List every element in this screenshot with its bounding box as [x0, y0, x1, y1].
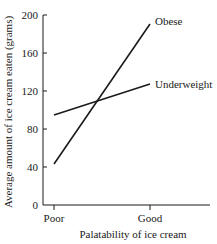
- line-chart: 200 160 120 80 40 0 Poor Good Palatabili…: [0, 0, 217, 244]
- y-ticks: [43, 15, 47, 167]
- y-tick-0: 0: [33, 199, 39, 211]
- series-label-obese: Obese: [155, 15, 183, 27]
- y-tick-labels: 200 160 120 80 40 0: [22, 9, 39, 211]
- y-tick-200: 200: [22, 9, 39, 21]
- y-tick-120: 120: [22, 85, 39, 97]
- x-axis-title: Palatability of ice cream: [79, 228, 187, 240]
- y-axis-title: Average amount of ice cream eaten (grams…: [2, 16, 15, 209]
- series-label-underweight: Underweight: [155, 78, 212, 90]
- series-line-obese: [54, 24, 150, 164]
- y-tick-160: 160: [22, 47, 39, 59]
- series-line-underweight: [54, 84, 150, 115]
- y-tick-80: 80: [27, 123, 39, 135]
- x-tick-poor: Poor: [44, 212, 65, 224]
- y-tick-40: 40: [27, 161, 39, 173]
- x-tick-good: Good: [138, 212, 163, 224]
